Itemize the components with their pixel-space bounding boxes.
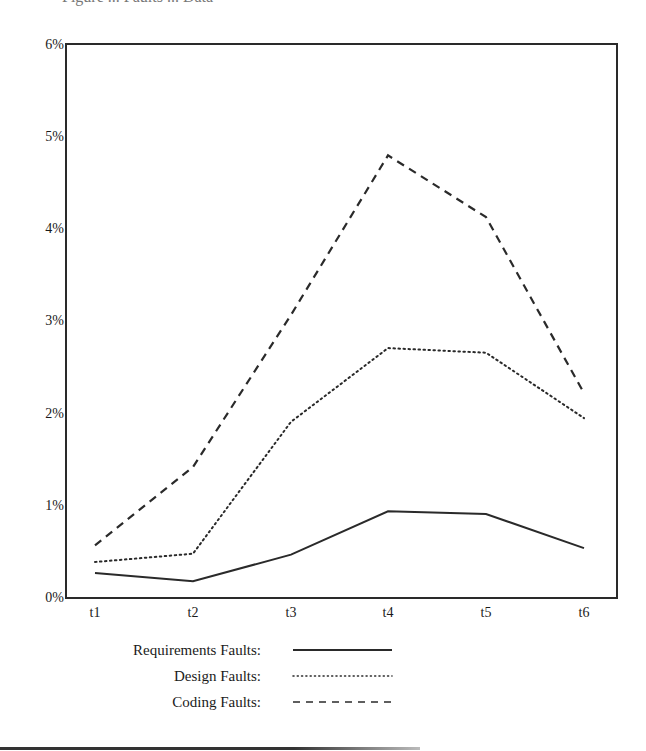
- y-tick-label: 2%: [45, 406, 64, 421]
- x-tick-label: t6: [579, 605, 590, 620]
- x-tick-label: t3: [286, 605, 297, 620]
- y-tick-label: 6%: [45, 37, 64, 52]
- legend-label: Requirements Faults:: [133, 642, 261, 658]
- series-lines: [95, 155, 584, 581]
- x-tick-label: t5: [481, 605, 492, 620]
- series-line-requirements-faults: [95, 511, 584, 581]
- y-axis-ticks: 0%1%2%3%4%5%6%: [45, 37, 64, 605]
- y-tick-label: 4%: [45, 221, 64, 236]
- y-tick-label: 3%: [45, 313, 64, 328]
- line-chart: 0%1%2%3%4%5%6% t1t2t3t4t5t6 Requirements…: [0, 0, 646, 751]
- legend: Requirements Faults:Design Faults:Coding…: [133, 642, 392, 710]
- y-tick-label: 1%: [45, 498, 64, 513]
- x-tick-label: t4: [383, 605, 394, 620]
- legend-label: Coding Faults:: [172, 694, 261, 710]
- x-tick-label: t1: [90, 605, 101, 620]
- series-line-coding-faults: [95, 155, 584, 545]
- x-tick-label: t2: [188, 605, 199, 620]
- plot-frame: [66, 44, 617, 598]
- y-tick-label: 5%: [45, 129, 64, 144]
- series-line-design-faults: [95, 348, 584, 562]
- page-bottom-rule: [0, 747, 420, 750]
- x-axis-ticks: t1t2t3t4t5t6: [90, 605, 590, 620]
- y-tick-label: 0%: [45, 590, 64, 605]
- legend-label: Design Faults:: [174, 668, 261, 684]
